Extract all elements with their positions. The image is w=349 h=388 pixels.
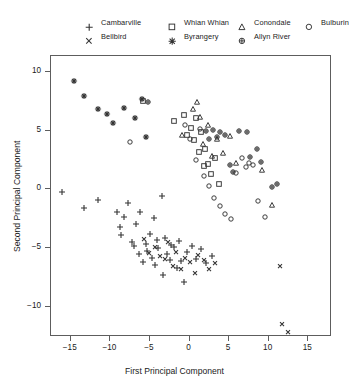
y-tick-label: 10 [32,67,41,75]
legend-item-allyn-river[interactable]: Allyn River [238,30,290,43]
y-tick [45,130,50,131]
legend-item-label: Allyn River [254,33,290,40]
circleplus-marker-icon [238,31,249,42]
legend-item-label: Cambarville [101,19,141,26]
legend-item-cambarville[interactable]: Cambarville [85,16,141,29]
legend-item-label: Byrangery [184,33,219,40]
y-axis-title: Second Principal Component [12,141,22,252]
y-tick [45,306,50,307]
y-tick [45,71,50,72]
x-tick-label: 15 [303,344,312,352]
x-tick [149,336,150,341]
pca-scatter-plot-figure: CambarvilleBellbirdWhian WhianByrangeryC… [0,0,349,388]
y-tick-label: 0 [36,184,41,192]
x-tick-label: 10 [263,344,272,352]
triangle-marker-icon [238,17,249,28]
y-tick-label: −5 [32,243,41,251]
plus-marker-icon [85,17,96,28]
x-axis-title: First Principal Component [0,366,349,376]
plot-frame [50,55,331,336]
square-marker-icon [168,17,179,28]
legend-item-bulburin[interactable]: Bulburin [305,16,349,29]
x-tick [109,336,110,341]
x-tick [268,336,269,341]
legend-item-label: Bulburin [321,19,349,26]
y-tick-label: 5 [36,126,41,134]
y-tick-label: −10 [27,301,41,309]
cross-marker-icon [85,31,96,42]
x-tick-label: 5 [226,344,231,352]
x-tick [228,336,229,341]
legend-item-bellbird[interactable]: Bellbird [85,30,126,43]
legend-item-label: Conondale [254,19,291,26]
y-tick [45,188,50,189]
x-tick-label: −15 [63,344,77,352]
chart-legend: CambarvilleBellbirdWhian WhianByrangeryC… [0,0,349,44]
y-tick [45,247,50,248]
legend-item-whian-whian[interactable]: Whian Whian [168,16,229,29]
legend-item-byrangery[interactable]: Byrangery [168,30,219,43]
x-tick [307,336,308,341]
x-tick-label: −5 [144,344,153,352]
x-tick-label: −10 [102,344,116,352]
legend-item-conondale[interactable]: Conondale [238,16,291,29]
x-tick [70,336,71,341]
circle-marker-icon [305,17,316,28]
asterisk-marker-icon [168,31,179,42]
legend-item-label: Bellbird [101,33,126,40]
x-tick [189,336,190,341]
x-tick-label: 0 [186,344,191,352]
legend-item-label: Whian Whian [184,19,229,26]
